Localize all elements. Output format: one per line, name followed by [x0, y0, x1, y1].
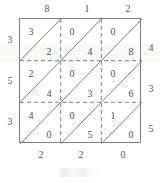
right-label-3: 5 [144, 124, 158, 134]
left-label-2: 5 [3, 76, 17, 86]
cell-r3c3-lower: 0 [125, 130, 137, 140]
cell-r2c1-upper: 2 [25, 69, 37, 79]
figure-root: 8 1 2 3 5 3 4 3 5 2 2 0 [0, 0, 160, 183]
cell-r3c1-lower: 0 [43, 130, 55, 140]
top-label-3: 2 [121, 4, 135, 14]
right-label-2: 3 [144, 84, 158, 94]
cell-r1c2-lower: 4 [84, 47, 96, 57]
bottom-label-2: 2 [74, 150, 88, 160]
cell-r2c1-lower: 4 [43, 89, 55, 99]
cell-r3c2-lower: 5 [84, 130, 96, 140]
cell-r3c1-upper: 4 [25, 111, 37, 121]
top-label-2: 1 [80, 4, 94, 14]
cell-r1c3-lower: 8 [125, 47, 137, 57]
cell-r1c3-upper: 0 [107, 27, 119, 37]
cell-r1c1-upper: 3 [25, 27, 37, 37]
bottom-label-1: 2 [34, 150, 48, 160]
cell-r1c1-lower: 2 [43, 47, 55, 57]
lattice-lines [20, 19, 142, 144]
cell-r2c2-upper: 0 [66, 69, 78, 79]
right-label-1: 4 [144, 43, 158, 53]
cell-r3c2-upper: 0 [66, 111, 78, 121]
left-label-3: 3 [3, 117, 17, 127]
caption-remnant [58, 168, 102, 177]
cell-r2c2-lower: 3 [84, 89, 96, 99]
top-label-1: 8 [40, 4, 54, 14]
cell-r2c3-lower: 6 [125, 89, 137, 99]
lattice-grid: 3 2 0 4 0 8 2 4 0 3 0 6 4 0 0 5 1 0 [19, 18, 141, 143]
cell-r1c2-upper: 0 [66, 27, 78, 37]
bottom-label-3: 0 [116, 150, 130, 160]
cell-r3c3-upper: 1 [107, 111, 119, 121]
cell-r2c3-upper: 0 [107, 69, 119, 79]
left-label-1: 3 [3, 35, 17, 45]
